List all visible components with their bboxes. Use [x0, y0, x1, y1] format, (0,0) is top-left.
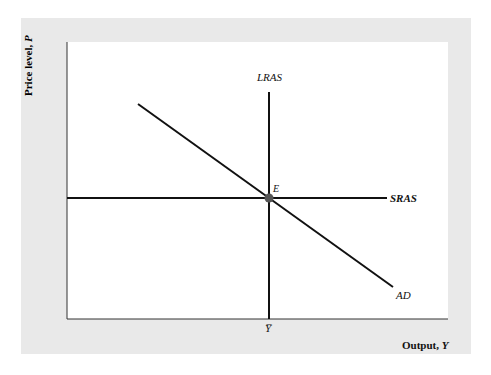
- x-tick-ybar: Y̅: [265, 322, 271, 334]
- y-axis-label: Price level, P: [22, 35, 34, 96]
- x-axis-label: Output, Y: [402, 339, 448, 351]
- plot-area: [67, 42, 448, 319]
- equilibrium-point: [265, 194, 274, 203]
- sras-label: SRAS: [390, 192, 417, 204]
- plot-svg: [0, 0, 491, 375]
- equilibrium-label: E: [273, 183, 279, 194]
- lras-label: LRAS: [257, 71, 282, 83]
- ad-label: AD: [396, 289, 411, 301]
